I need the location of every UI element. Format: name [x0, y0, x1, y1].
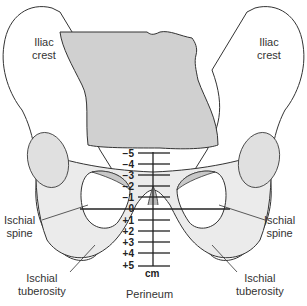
- tick-label: +4: [116, 248, 134, 259]
- label-ischial-spine-left: Ischialspine: [4, 214, 35, 240]
- tick-label: −3: [116, 170, 134, 181]
- label-ischial-spine-right: Ischialspine: [264, 214, 295, 240]
- tick-label: +3: [116, 237, 134, 248]
- label-ischial-tuberosity-right: Ischialtuberosity: [236, 272, 284, 298]
- label-iliac-crest-right: Iliaccrest: [257, 36, 281, 62]
- label-ischial-tuberosity-left: Ischialtuberosity: [18, 272, 66, 298]
- pelvis-station-diagram: Iliaccrest Iliaccrest Ischialspine Ischi…: [0, 0, 307, 306]
- tick-label: +2: [116, 226, 134, 237]
- tick-label: −2: [116, 181, 134, 192]
- tick-label: −1: [116, 192, 134, 203]
- unit-label: cm: [145, 268, 159, 279]
- tick-label: −4: [116, 159, 134, 170]
- label-iliac-crest-left: Iliaccrest: [32, 36, 56, 62]
- tick-label: 0: [116, 203, 134, 214]
- tick-label: +1: [116, 215, 134, 226]
- tick-label: +5: [116, 260, 134, 271]
- label-perineum: Perineum: [126, 288, 173, 301]
- tick-label: −5: [116, 148, 134, 159]
